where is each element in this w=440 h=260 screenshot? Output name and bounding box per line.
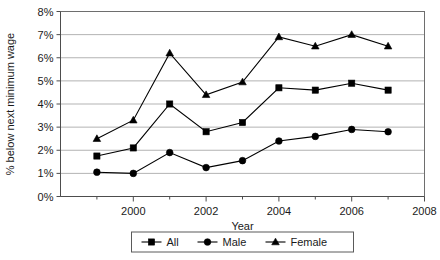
data-point-marker [275,33,283,40]
y-tick-label: 4% [38,98,54,110]
data-point-marker [94,153,100,159]
series-male [94,126,392,177]
data-point-marker [276,138,283,145]
data-point-marker [94,169,101,176]
data-point-marker [166,149,173,156]
legend-label: Female [291,236,328,248]
line-chart: 0%1%2%3%4%5%6%7%8% 20002002200420062008 … [0,0,440,260]
data-point-marker [203,129,209,135]
x-tick-label: 2002 [194,205,218,217]
data-point-marker [349,80,355,86]
gridlines-group [61,12,425,174]
data-point-marker [348,31,356,38]
data-point-marker [276,85,282,91]
y-tick-label: 1% [38,167,54,179]
y-tick-label: 2% [38,144,54,156]
data-point-marker [385,128,392,135]
data-point-marker [203,164,210,171]
x-axis-tick-marks [97,197,425,202]
data-point-marker [130,145,136,151]
x-tick-label: 2006 [339,205,363,217]
legend-label: Male [223,236,247,248]
y-axis-tick-labels: 0%1%2%3%4%5%6%7%8% [38,6,61,203]
x-tick-label: 2008 [412,205,436,217]
data-point-marker [312,133,319,140]
y-tick-label: 7% [38,29,54,41]
data-point-marker [239,119,245,125]
x-tick-label: 2000 [121,205,145,217]
data-point-marker [93,135,101,142]
data-point-marker [312,87,318,93]
x-tick-label: 2004 [267,205,291,217]
legend-label: All [167,236,179,248]
x-axis-title: Year [231,220,254,232]
data-point-marker [385,87,391,93]
data-point-marker [130,170,137,177]
data-point-marker [148,239,154,245]
data-point-marker [167,101,173,107]
y-tick-label: 3% [38,121,54,133]
y-axis-title: % below next minimum wage [4,33,16,175]
data-point-marker [166,49,174,56]
x-axis-tick-labels: 20002002200420062008 [121,205,437,217]
data-point-marker [204,239,211,246]
y-tick-label: 8% [38,6,54,18]
y-tick-label: 6% [38,52,54,64]
data-point-marker [130,116,138,123]
chart-canvas: 0%1%2%3%4%5%6%7%8% 20002002200420062008 … [0,0,440,260]
series-all [94,80,391,159]
chart-legend: AllMaleFemale [132,232,354,252]
series-line [97,129,388,173]
y-tick-label: 5% [38,75,54,87]
y-tick-label: 0% [38,191,54,203]
data-point-marker [348,126,355,133]
data-point-marker [239,157,246,164]
